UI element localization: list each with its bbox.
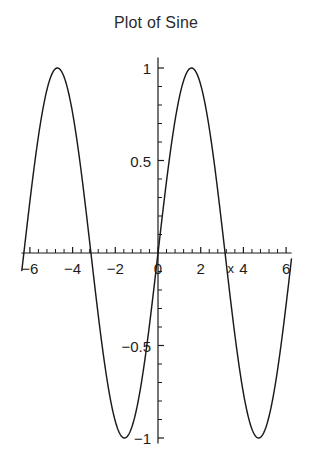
y-tick-label: −1 <box>134 430 151 447</box>
x-axis-label: x <box>227 261 234 276</box>
x-tick-label: −2 <box>107 260 124 277</box>
plot-area: −6−4−20246 −1−0.50.51 x <box>0 0 312 465</box>
x-tick-label: 4 <box>239 260 247 277</box>
y-tick-label: 0.5 <box>130 153 151 170</box>
chart-figure: Plot of Sine −6−4−20246 −1−0.50.51 x <box>0 0 312 465</box>
y-tick-label: 1 <box>143 60 151 77</box>
x-tick-label: 2 <box>197 260 205 277</box>
x-tick-label: −6 <box>21 260 38 277</box>
x-tick-label: −4 <box>64 260 81 277</box>
